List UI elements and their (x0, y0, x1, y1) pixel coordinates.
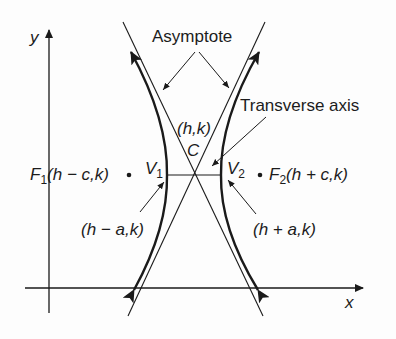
transverse-axis-label: Transverse axis (240, 97, 359, 114)
hyperbola-diagram: y x Asymptote Transverse axis (h,k) C V1… (0, 0, 396, 339)
focus-1-point (127, 173, 132, 178)
asymptote-pointer-left (163, 52, 195, 90)
vertex-2-coords-label: (h + a,k) (253, 221, 316, 238)
v1-pointer (140, 182, 164, 212)
x-axis-label: x (345, 294, 354, 311)
asymptote-pointer-right (199, 52, 229, 88)
vertex-1-coords-label: (h − a,k) (81, 221, 144, 238)
center-coords-label: (h,k) (177, 120, 211, 137)
asymptote-label: Asymptote (152, 28, 232, 45)
vertex-1-label: V1 (145, 160, 163, 180)
focus-2-point (258, 173, 263, 178)
v2-pointer (228, 180, 256, 214)
center-label: C (187, 142, 199, 159)
vertex-2-label: V2 (227, 160, 245, 180)
transverse-axis-pointer (212, 117, 266, 166)
focus-1-label: F1(h − c,k) (30, 166, 109, 186)
focus-2-label: F2(h + c,k) (269, 166, 348, 186)
y-axis-label: y (30, 29, 39, 46)
